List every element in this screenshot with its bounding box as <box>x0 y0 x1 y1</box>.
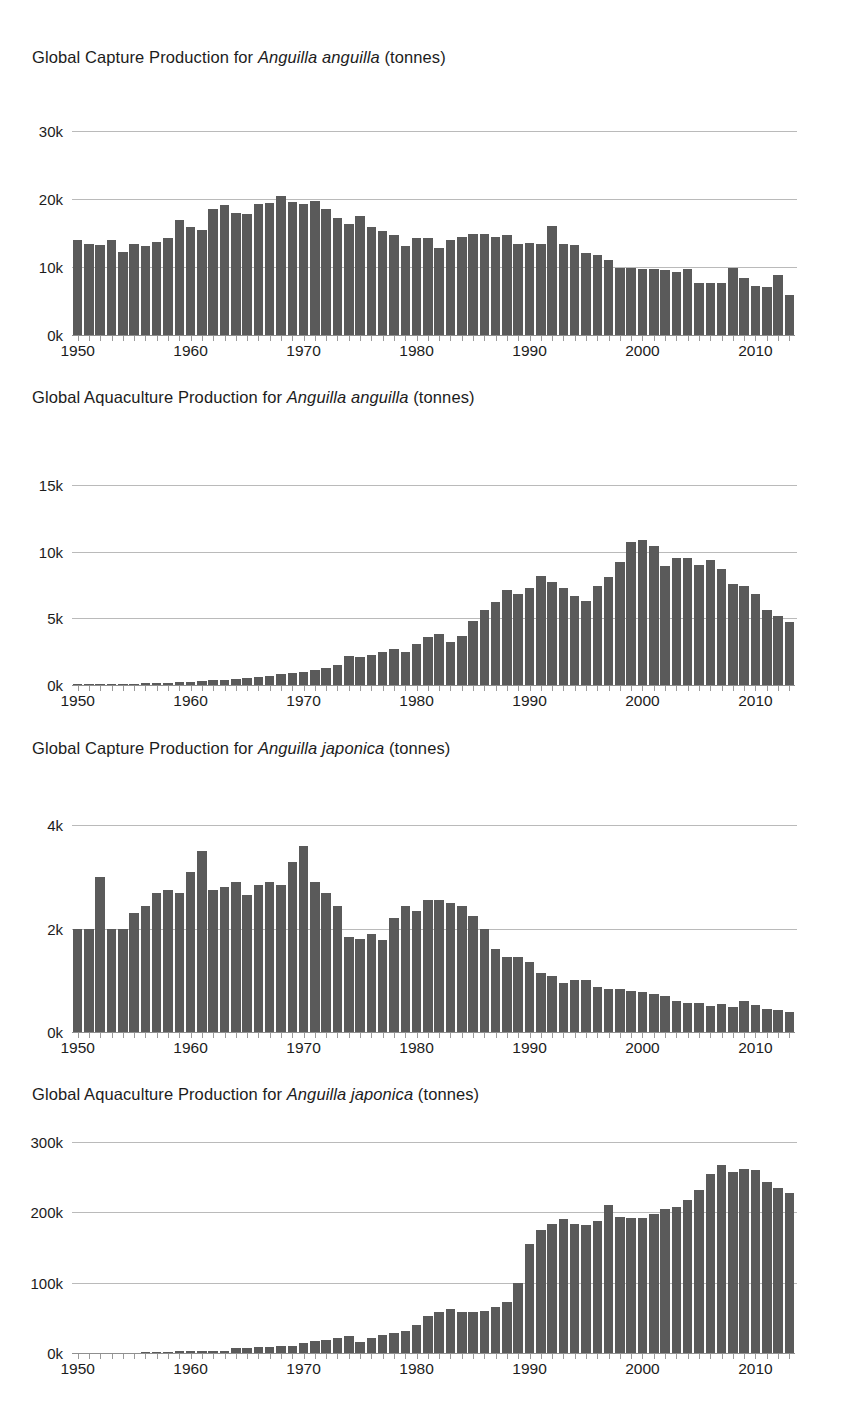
y-axis-tick-label: 0k <box>47 328 63 343</box>
x-axis-tick <box>332 1033 343 1039</box>
x-axis-tick <box>219 1354 230 1360</box>
bar <box>344 1336 354 1353</box>
bar <box>378 231 388 335</box>
bar <box>412 1325 422 1353</box>
bar <box>547 1224 557 1353</box>
bar <box>197 230 207 335</box>
y-axis-tick-label: 20k <box>39 191 63 206</box>
bar <box>502 590 512 685</box>
bar <box>389 649 399 685</box>
x-axis-tick <box>456 1033 467 1039</box>
x-axis-tick <box>106 686 117 692</box>
x-axis-tick <box>343 686 354 692</box>
x-axis-tick <box>784 686 795 692</box>
bar <box>683 1200 693 1353</box>
bar <box>107 240 117 335</box>
bar <box>751 594 761 685</box>
x-axis-tick <box>388 1354 399 1360</box>
bar <box>773 1188 783 1353</box>
x-axis-tick <box>354 1354 365 1360</box>
title-units: (tonnes) <box>409 388 475 406</box>
x-axis-tick <box>727 1354 738 1360</box>
bar <box>604 989 614 1032</box>
bar <box>570 245 580 335</box>
x-axis-tick <box>546 336 557 342</box>
bar <box>491 949 501 1032</box>
x-axis-tick-label: 1970 <box>286 1361 320 1377</box>
title-species-name: Anguilla japonica <box>258 739 384 757</box>
x-axis-tick <box>343 1354 354 1360</box>
bar <box>378 652 388 685</box>
bar <box>367 934 377 1032</box>
x-axis-tick <box>501 1354 512 1360</box>
x-axis-tick <box>264 1033 275 1039</box>
x-axis-tick <box>151 336 162 342</box>
x-axis-tick <box>253 336 264 342</box>
bar <box>615 1217 625 1353</box>
bar <box>683 558 693 685</box>
plot-area-capture-anguilla-anguilla: 0k10k20k30k1950196019701980199020002010 <box>72 117 795 335</box>
bar <box>310 670 320 685</box>
title-units: (tonnes) <box>380 48 446 66</box>
bar <box>299 672 309 685</box>
bar <box>604 1205 614 1353</box>
x-axis-tick <box>682 1033 693 1039</box>
x-axis-tick <box>264 1354 275 1360</box>
x-axis-tick <box>332 1354 343 1360</box>
x-axis-tick <box>230 1033 241 1039</box>
bar <box>547 976 557 1032</box>
x-axis-tick <box>151 686 162 692</box>
y-axis-tick-label: 0k <box>47 1025 63 1040</box>
bar <box>141 906 151 1032</box>
bar <box>197 851 207 1032</box>
bar <box>717 1004 727 1032</box>
x-axis-tick <box>659 686 670 692</box>
bar <box>491 237 501 335</box>
bar <box>401 652 411 685</box>
x-axis-tick <box>772 336 783 342</box>
bar <box>706 560 716 685</box>
x-axis-tick-label: 1990 <box>512 343 546 359</box>
bar <box>423 1316 433 1353</box>
y-axis-tick-label: 30k <box>39 123 63 138</box>
bar <box>412 644 422 685</box>
bar <box>660 1209 670 1353</box>
y-axis-tick-label: 2k <box>47 921 63 936</box>
x-axis-tick-label: 1980 <box>399 343 433 359</box>
bar <box>728 584 738 685</box>
bar <box>276 885 286 1032</box>
bar <box>525 1244 535 1353</box>
chart-title-aquaculture-anguilla-anguilla: Global Aquaculture Production for Anguil… <box>32 388 475 407</box>
x-axis-tick <box>716 1033 727 1039</box>
figure-page: Global Capture Production for Anguilla a… <box>0 0 850 1416</box>
x-axis-tick <box>592 1033 603 1039</box>
bar <box>717 1165 727 1353</box>
bar <box>638 992 648 1032</box>
x-axis-tick <box>614 1033 625 1039</box>
bar <box>683 269 693 335</box>
bar <box>333 218 343 335</box>
bar <box>434 634 444 685</box>
bar <box>593 586 603 685</box>
x-axis-tick <box>682 336 693 342</box>
x-axis-tick <box>558 1354 569 1360</box>
bar <box>593 1221 603 1353</box>
x-axis-tick-label: 1980 <box>399 1361 433 1377</box>
x-axis-tick <box>434 336 445 342</box>
x-axis-tick <box>128 336 139 342</box>
x-axis-tick-label: 1950 <box>60 1361 94 1377</box>
bar <box>299 204 309 335</box>
y-axis-tick-label: 5k <box>47 611 63 626</box>
x-axis-tick <box>321 686 332 692</box>
bar <box>73 240 83 335</box>
x-axis-tick <box>569 1354 580 1360</box>
bar-series <box>72 117 795 335</box>
title-prefix: Global Capture Production for <box>32 48 258 66</box>
x-axis-tick-label: 1970 <box>286 1040 320 1056</box>
x-axis-tick <box>219 336 230 342</box>
x-axis-tick <box>501 686 512 692</box>
bar <box>751 1170 761 1353</box>
bar <box>457 237 467 335</box>
x-axis-tick <box>106 1354 117 1360</box>
bar <box>129 913 139 1032</box>
